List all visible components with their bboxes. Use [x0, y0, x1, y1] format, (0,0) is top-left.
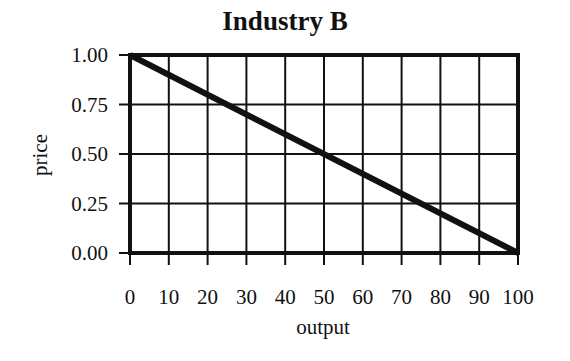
x-tick-label: 40: [275, 285, 296, 310]
x-tick-label: 20: [197, 285, 218, 310]
x-axis-label: output: [296, 315, 350, 340]
x-tick-label: 90: [469, 285, 490, 310]
x-tick-label: 80: [430, 285, 451, 310]
x-tick-label: 30: [236, 285, 257, 310]
y-tick-label: 1.00: [71, 43, 108, 68]
axis-ticks: [119, 55, 518, 265]
y-tick-label: 0.00: [71, 241, 108, 266]
y-axis-label: price: [28, 134, 53, 176]
x-tick-label: 100: [502, 285, 534, 310]
y-tick-label: 0.75: [71, 92, 108, 117]
x-tick-label: 50: [314, 285, 335, 310]
x-tick-label: 0: [125, 285, 136, 310]
x-tick-label: 70: [391, 285, 412, 310]
x-tick-label: 10: [158, 285, 179, 310]
chart-title: Industry B: [0, 6, 570, 37]
x-tick-label: 60: [352, 285, 373, 310]
y-tick-label: 0.25: [71, 191, 108, 216]
y-tick-label: 0.50: [71, 142, 108, 167]
